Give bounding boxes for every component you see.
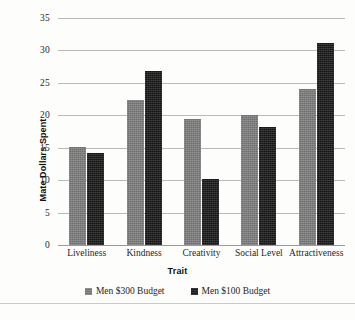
bar-groups [58,18,345,245]
bar [299,89,316,245]
gridline [58,245,345,246]
figure-caption [0,309,355,320]
x-axis-tick-label: Kindness [115,248,172,258]
figure-divider [0,303,355,304]
bar-group [288,18,345,245]
bar-group [230,18,287,245]
y-axis-tick-label: 0 [0,240,50,250]
y-axis-tick-label: 25 [0,78,50,88]
legend-swatch-icon [191,288,198,295]
bar [87,153,104,245]
bar [259,127,276,245]
chart-legend: Men $300 BudgetMen $100 Budget [0,286,355,296]
x-axis-tick-label: Creativity [173,248,230,258]
y-axis-tick-label: 5 [0,208,50,218]
bar-group [115,18,172,245]
x-axis-title: Trait [0,266,355,276]
bar [145,71,162,245]
y-axis-tick-label: 35 [0,13,50,23]
y-axis-tick-label: 10 [0,175,50,185]
legend-label: Men $100 Budget [202,286,271,296]
legend-item[interactable]: Men $300 Budget [85,286,165,296]
y-axis-title: Mate Dollars Spent [38,119,48,202]
bar [241,115,258,245]
bar-group [58,18,115,245]
bar [184,119,201,245]
y-axis-tick-label: 15 [0,143,50,153]
legend-swatch-icon [85,288,92,295]
bar-chart-figure: Mate Dollars Spent 05101520253035 Liveli… [0,0,355,320]
x-axis-tick-label: Attractiveness [288,248,345,258]
x-axis-tick-label: Social Level [230,248,287,258]
bar [127,100,144,245]
legend-label: Men $300 Budget [96,286,165,296]
plot-area [58,18,345,245]
bar [69,147,86,245]
x-axis-tick-label: Liveliness [58,248,115,258]
y-axis-tick-label: 20 [0,110,50,120]
y-axis-tick-label: 30 [0,45,50,55]
legend-item[interactable]: Men $100 Budget [191,286,271,296]
bar [317,43,334,245]
bar [202,179,219,245]
bar-group [173,18,230,245]
